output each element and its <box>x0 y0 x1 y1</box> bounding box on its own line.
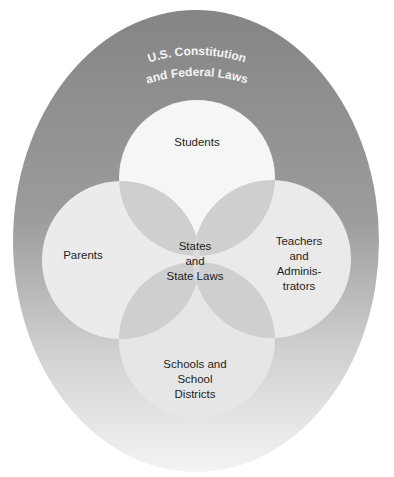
label-schools-3: Districts <box>175 388 216 400</box>
label-center-3: State Laws <box>167 270 224 282</box>
label-teachers-2: and <box>289 250 308 262</box>
label-students: Students <box>174 136 220 148</box>
label-center-1: States <box>179 240 212 252</box>
label-teachers-3: Adminis- <box>277 265 322 277</box>
label-schools-1: Schools and <box>163 358 226 370</box>
label-center-2: and <box>185 255 204 267</box>
venn-diagram: U.S. Constitution and Federal Laws Stude… <box>0 0 394 477</box>
label-schools-2: School <box>177 373 212 385</box>
label-teachers-4: trators <box>283 280 316 292</box>
label-teachers-1: Teachers <box>276 235 323 247</box>
label-parents: Parents <box>63 249 103 261</box>
